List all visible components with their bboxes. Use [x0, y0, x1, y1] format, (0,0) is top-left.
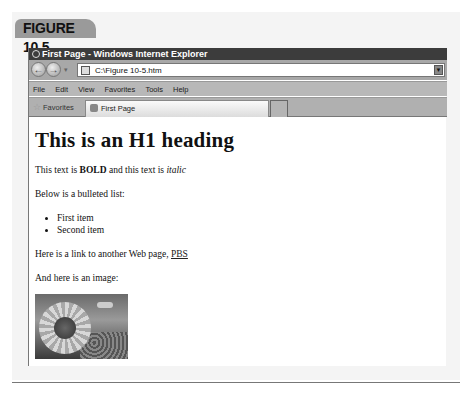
address-bar[interactable]: C:\Figure 10-5.htm ▼ — [77, 63, 445, 77]
link-intro: Here is a link to another Web page, — [35, 249, 171, 259]
page-heading: This is an H1 heading — [35, 128, 445, 152]
text-bold: BOLD — [80, 165, 107, 175]
favorites-button[interactable]: ☆Favorites — [33, 102, 74, 113]
menu-bar: File Edit View Favorites Tools Help — [29, 81, 447, 96]
text-plain: and this text is — [107, 165, 167, 175]
link-line: Here is a link to another Web page, PBS — [35, 248, 445, 260]
page-icon — [81, 66, 90, 75]
window-title: First Page - Windows Internet Explorer — [42, 49, 207, 59]
text-plain: This text is — [35, 165, 80, 175]
flower-center-shape — [54, 317, 76, 339]
internet-explorer-icon — [32, 50, 40, 58]
forward-arrow-icon: → — [49, 64, 59, 75]
menu-edit[interactable]: Edit — [51, 82, 72, 97]
menu-file[interactable]: File — [29, 82, 49, 97]
figure-label: FIGURE 10.5 — [15, 19, 96, 38]
tab-label: First Page — [101, 104, 135, 113]
menu-favorites[interactable]: Favorites — [100, 82, 139, 97]
chevron-down-icon: ▼ — [436, 67, 442, 73]
title-bar: First Page - Windows Internet Explorer — [29, 48, 447, 60]
image-intro: And here is an image: — [35, 272, 445, 284]
favorites-label: Favorites — [43, 103, 74, 112]
history-dropdown-icon[interactable]: ▾ — [64, 66, 68, 74]
forward-button[interactable]: → — [46, 62, 61, 77]
text-italic: italic — [166, 165, 186, 175]
address-input[interactable]: C:\Figure 10-5.htm — [95, 64, 162, 77]
bulleted-list: First item Second item — [35, 212, 445, 236]
page-tab-icon — [90, 104, 98, 112]
list-item: Second item — [57, 224, 445, 236]
sunflower-image — [35, 294, 128, 359]
back-arrow-icon: ← — [34, 64, 44, 75]
pbs-link[interactable]: PBS — [171, 249, 188, 259]
menu-help[interactable]: Help — [169, 82, 192, 97]
cloud-shape — [97, 302, 113, 308]
tab-first-page[interactable]: First Page — [85, 100, 269, 117]
menu-tools[interactable]: Tools — [141, 82, 167, 97]
back-button[interactable]: ← — [31, 62, 46, 77]
address-dropdown-button[interactable]: ▼ — [434, 65, 443, 75]
page-content: This is an H1 heading This text is BOLD … — [35, 118, 445, 359]
star-icon: ☆ — [33, 102, 41, 112]
address-row: ← → ▾ C:\Figure 10-5.htm ▼ — [29, 60, 447, 80]
list-intro: Below is a bulleted list: — [35, 188, 445, 200]
formatting-line: This text is BOLD and this text is itali… — [35, 164, 445, 176]
menu-view[interactable]: View — [74, 82, 98, 97]
new-tab-button[interactable] — [270, 100, 288, 117]
browser-window: First Page - Windows Internet Explorer ←… — [28, 48, 446, 366]
horizontal-rule — [12, 382, 460, 383]
list-item: First item — [57, 212, 445, 224]
tab-bar: ☆Favorites First Page — [29, 97, 447, 117]
